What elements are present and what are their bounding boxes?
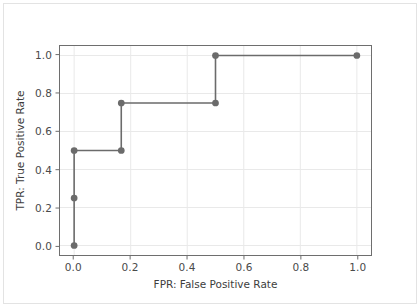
roc-step-path — [74, 55, 357, 245]
y-tick-label: 0.6 — [52, 125, 69, 137]
y-tick-label: 1.0 — [52, 49, 69, 61]
data-point-marker — [353, 52, 360, 59]
data-point-marker — [118, 147, 125, 154]
x-tick-label: 1.0 — [349, 261, 366, 273]
y-tick-label: 0.2 — [52, 202, 69, 214]
y-tick-label: 0.8 — [52, 87, 69, 99]
y-tick-label: 0.0 — [52, 240, 69, 252]
plot-area — [59, 45, 372, 256]
y-tick-label: 0.4 — [52, 164, 69, 176]
roc-curve-line — [74, 55, 357, 245]
x-tick-label: 0.6 — [236, 261, 253, 273]
x-tick-label: 0.0 — [65, 261, 82, 273]
data-point-marker — [212, 100, 219, 107]
x-tick-label: 0.2 — [122, 261, 139, 273]
y-axis-label: TPR: True Positive Rate — [14, 45, 30, 256]
data-point-marker — [71, 242, 78, 249]
data-point-marker — [212, 52, 219, 59]
data-point-marker — [118, 100, 125, 107]
data-point-marker — [71, 195, 78, 202]
x-tick-label: 0.4 — [179, 261, 196, 273]
x-tick-label: 0.8 — [292, 261, 309, 273]
roc-curve-figure: TPR: True Positive Rate 0.00.20.40.60.81… — [0, 0, 420, 307]
data-point-marker — [71, 147, 78, 154]
x-axis-label: FPR: False Positive Rate — [59, 278, 372, 290]
plot-canvas — [60, 46, 371, 255]
